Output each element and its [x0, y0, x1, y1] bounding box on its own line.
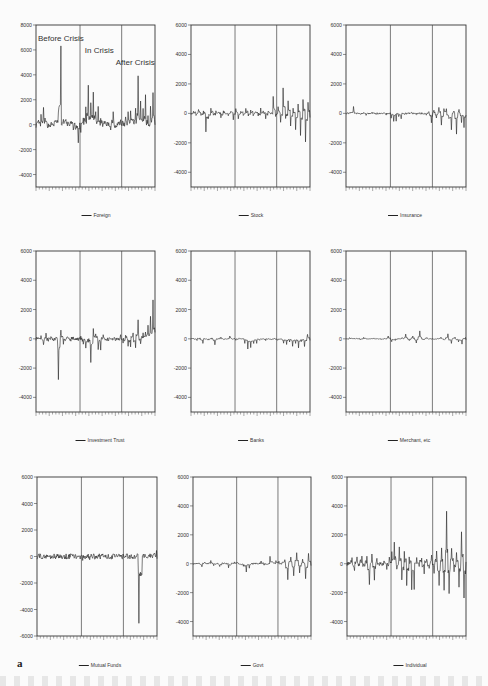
plot-area: 6000400020000-2000-4000 [193, 477, 311, 646]
y-tick-label: 4000 [330, 51, 342, 57]
y-tick-label: -2000 [176, 590, 189, 596]
legend-line-icon [239, 215, 249, 216]
y-tick-label: -4000 [329, 169, 342, 175]
legend-label: Banks [250, 437, 264, 443]
legend-line-icon [393, 665, 403, 666]
y-tick-label: 6000 [175, 22, 187, 28]
y-tick-label: -2000 [174, 365, 187, 371]
y-tick-label: -2000 [330, 590, 343, 596]
y-tick-label: 4000 [20, 277, 32, 283]
y-tick-label: -4000 [174, 169, 187, 175]
data-series-line [346, 107, 466, 135]
plot-area: 6000400020000-2000-4000-6000 [37, 477, 157, 646]
legend-label: Foreign [94, 212, 111, 218]
y-tick-label: 6000 [20, 47, 32, 53]
legend-label: Individual [405, 662, 426, 668]
y-tick-label: 6000 [330, 248, 342, 254]
panel-stock: 6000400020000-2000-4000 [191, 25, 310, 187]
panel-merchant: 6000400020000-2000-4000 [346, 251, 466, 412]
y-tick-label: 6000 [331, 474, 343, 480]
legend-label: Mutual Funds [91, 662, 121, 668]
y-tick-label: 8000 [20, 22, 32, 28]
y-tick-label: 6000 [20, 248, 32, 254]
plot-area: 6000400020000-2000-4000 [191, 251, 310, 422]
y-tick-label: 6000 [21, 474, 33, 480]
plot-area: 6000400020000-2000-4000 [36, 251, 155, 422]
y-tick-label: -2000 [329, 140, 342, 146]
legend-label: Investment Trust [88, 437, 125, 443]
period-annotation: After Crisis [116, 58, 155, 67]
y-tick-label: -2000 [329, 365, 342, 371]
legend-banks: Banks [238, 437, 264, 443]
y-tick-label: 4000 [175, 277, 187, 283]
y-tick-label: 0 [340, 561, 343, 567]
legend-mutual-funds: Mutual Funds [79, 662, 121, 668]
data-series-line [37, 551, 157, 624]
y-tick-label: -4000 [330, 619, 343, 625]
legend-line-icon [82, 215, 92, 216]
y-tick-label: -4000 [176, 619, 189, 625]
legend-investment-trust: Investment Trust [76, 437, 125, 443]
y-tick-label: 2000 [175, 307, 187, 313]
legend-line-icon [238, 440, 248, 441]
y-tick-label: -6000 [20, 633, 33, 639]
y-tick-label: 4000 [331, 503, 343, 509]
data-series-line [193, 553, 311, 580]
y-tick-label: -4000 [20, 607, 33, 613]
legend-govt: Govt [241, 662, 264, 668]
plot-area: 6000400020000-2000-4000 [346, 25, 466, 197]
y-tick-label: 4000 [175, 51, 187, 57]
legend-label: Insurance [400, 212, 422, 218]
y-tick-label: 0 [186, 561, 189, 567]
y-tick-label: -4000 [174, 394, 187, 400]
y-tick-label: 2000 [175, 81, 187, 87]
y-tick-label: 0 [30, 554, 33, 560]
y-tick-label: 0 [339, 110, 342, 116]
y-tick-label: 0 [184, 336, 187, 342]
legend-stock: Stock [239, 212, 264, 218]
y-tick-label: -2000 [20, 580, 33, 586]
data-series-line [347, 511, 466, 598]
y-tick-label: 0 [29, 336, 32, 342]
data-series-line [346, 331, 466, 344]
legend-line-icon [241, 665, 251, 666]
panel-individual: 6000400020000-2000-4000 [347, 477, 466, 636]
data-series-line [191, 334, 310, 349]
y-tick-label: 6000 [175, 248, 187, 254]
legend-foreign: Foreign [82, 212, 111, 218]
y-tick-label: 2000 [177, 532, 189, 538]
legend-line-icon [388, 440, 398, 441]
legend-label: Govt [253, 662, 264, 668]
y-tick-label: 2000 [330, 81, 342, 87]
figure-label: a [17, 657, 23, 669]
plot-area: 6000400020000-2000-4000 [347, 477, 466, 646]
data-series-line [191, 88, 310, 142]
legend-line-icon [388, 215, 398, 216]
panel-investment-trust: 6000400020000-2000-4000 [36, 251, 155, 412]
plot-area: 80006000400020000-2000-4000Before Crisis… [36, 25, 155, 197]
legend-label: Stock [251, 212, 264, 218]
bleed-through-text [0, 676, 488, 686]
legend-individual: Individual [393, 662, 426, 668]
legend-insurance: Insurance [388, 212, 422, 218]
panel-insurance: 6000400020000-2000-4000 [346, 25, 466, 187]
y-tick-label: 4000 [20, 72, 32, 78]
y-tick-label: 2000 [330, 307, 342, 313]
y-tick-label: 0 [29, 122, 32, 128]
panel-banks: 6000400020000-2000-4000 [191, 251, 310, 412]
y-tick-label: 2000 [331, 532, 343, 538]
y-tick-label: 4000 [177, 503, 189, 509]
plot-area: 6000400020000-2000-4000 [346, 251, 466, 422]
panel-mutual-funds: 6000400020000-2000-4000-6000 [37, 477, 157, 636]
data-series-line [36, 300, 155, 380]
y-tick-label: -2000 [19, 147, 32, 153]
y-tick-label: -4000 [329, 394, 342, 400]
y-tick-label: -4000 [19, 394, 32, 400]
y-tick-label: -2000 [174, 140, 187, 146]
y-tick-label: 2000 [21, 527, 33, 533]
y-tick-label: -2000 [19, 365, 32, 371]
panel-foreign: 80006000400020000-2000-4000Before Crisis… [36, 25, 155, 187]
legend-label: Merchant, etc [400, 437, 430, 443]
period-annotation: Before Crisis [38, 34, 84, 43]
y-tick-label: 0 [184, 110, 187, 116]
